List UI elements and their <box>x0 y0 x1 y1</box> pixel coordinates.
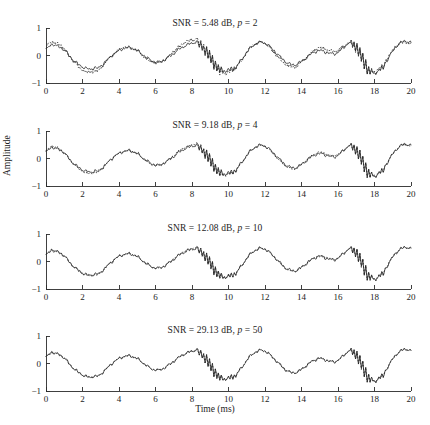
x-tick-label: 4 <box>117 394 122 404</box>
x-tick-label: 10 <box>224 394 234 404</box>
x-tick-label: 0 <box>44 394 49 404</box>
x-tick-label: 2 <box>80 394 85 404</box>
axis-spine <box>46 336 411 391</box>
plot-area-4: −10102468101214161820 <box>0 0 430 425</box>
plot-panel-4: SNR = 29.13 dB, p = 50 −1010246810121416… <box>0 325 430 413</box>
x-tick-label: 12 <box>261 394 270 404</box>
x-tick-label: 8 <box>190 394 195 404</box>
x-tick-label: 14 <box>297 394 307 404</box>
figure-container: SNR = 5.48 dB, p = 2 −101024681012141618… <box>0 0 430 425</box>
x-tick-label: 16 <box>334 394 344 404</box>
x-axis-label: Time (ms) <box>0 404 430 414</box>
y-tick-label: 1 <box>37 331 42 341</box>
y-tick-label: 0 <box>37 359 42 369</box>
x-tick-label: 20 <box>407 394 417 404</box>
y-axis-label: Amplitude <box>2 162 12 176</box>
x-tick-label: 6 <box>153 394 158 404</box>
x-tick-label: 18 <box>370 394 380 404</box>
trace-reconstructed-solid <box>46 348 411 383</box>
y-tick-label: −1 <box>31 386 41 396</box>
